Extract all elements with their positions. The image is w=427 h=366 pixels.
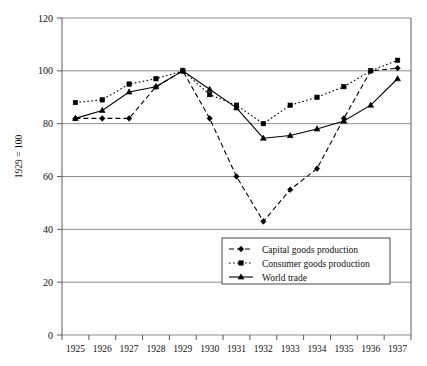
series-2-marker-square [127,82,131,86]
x-tick-label: 1936 [361,344,380,354]
series-1-marker-diamond [234,174,239,180]
series-2-marker-square [315,95,319,99]
y-gridlines: 020406080100120 [38,13,411,341]
series-3-marker-triangle [207,86,213,91]
series-1-marker-diamond [207,116,212,122]
x-tick-label: 1927 [120,344,139,354]
x-tick-label: 1929 [173,344,192,354]
chart-legend: Capital goods productionConsumer goods p… [222,238,390,284]
legend-label-3: World trade [262,273,307,283]
x-tick-label: 1928 [146,344,165,354]
series-2-marker-square [207,92,211,96]
x-tick-label: 1925 [66,344,85,354]
line-chart: 0204060801001201925192619271928192919301… [0,0,427,366]
x-tick-label: 1937 [388,344,407,354]
y-axis-title: 1929 = 100 [14,135,24,179]
series-line-1 [75,68,397,221]
series-2-marker-square [261,121,265,125]
chart-container: 0204060801001201925192619271928192919301… [0,0,427,366]
series-3-marker-triangle [395,76,401,81]
y-tick-label: 40 [43,224,53,235]
x-tick-label: 1930 [200,344,219,354]
series-3-marker-triangle [99,107,105,112]
series-2-marker-square [342,84,346,88]
y-tick-label: 120 [38,13,53,24]
series-line-2 [75,60,397,123]
x-tick-label: 1926 [93,344,112,354]
x-tick-label: 1931 [227,344,246,354]
legend-2-marker-square [239,261,243,265]
legend-label-2: Consumer goods production [262,259,370,269]
y-tick-label: 0 [48,330,53,341]
x-tick-label: 1932 [254,344,273,354]
x-tick-label: 1935 [334,344,353,354]
series-2-marker-square [100,98,104,102]
y-tick-label: 20 [43,277,53,288]
y-tick-label: 80 [43,118,53,129]
x-axis: 1925192619271928192919301931193219331934… [62,335,411,354]
y-tick-label: 60 [43,171,53,182]
x-tick-label: 1933 [281,344,300,354]
series-2-marker-square [369,69,373,73]
x-tick-label: 1934 [308,344,327,354]
series-2 [73,58,400,126]
series-2-marker-square [154,77,158,81]
legend-label-1: Capital goods production [262,245,358,255]
y-tick-label: 100 [38,65,53,76]
series-2-marker-square [288,103,292,107]
series-1-marker-diamond [100,116,105,122]
series-2-marker-square [73,100,77,104]
series-1-marker-diamond [395,65,400,71]
series-2-marker-square [395,58,399,62]
series-1 [73,65,400,224]
